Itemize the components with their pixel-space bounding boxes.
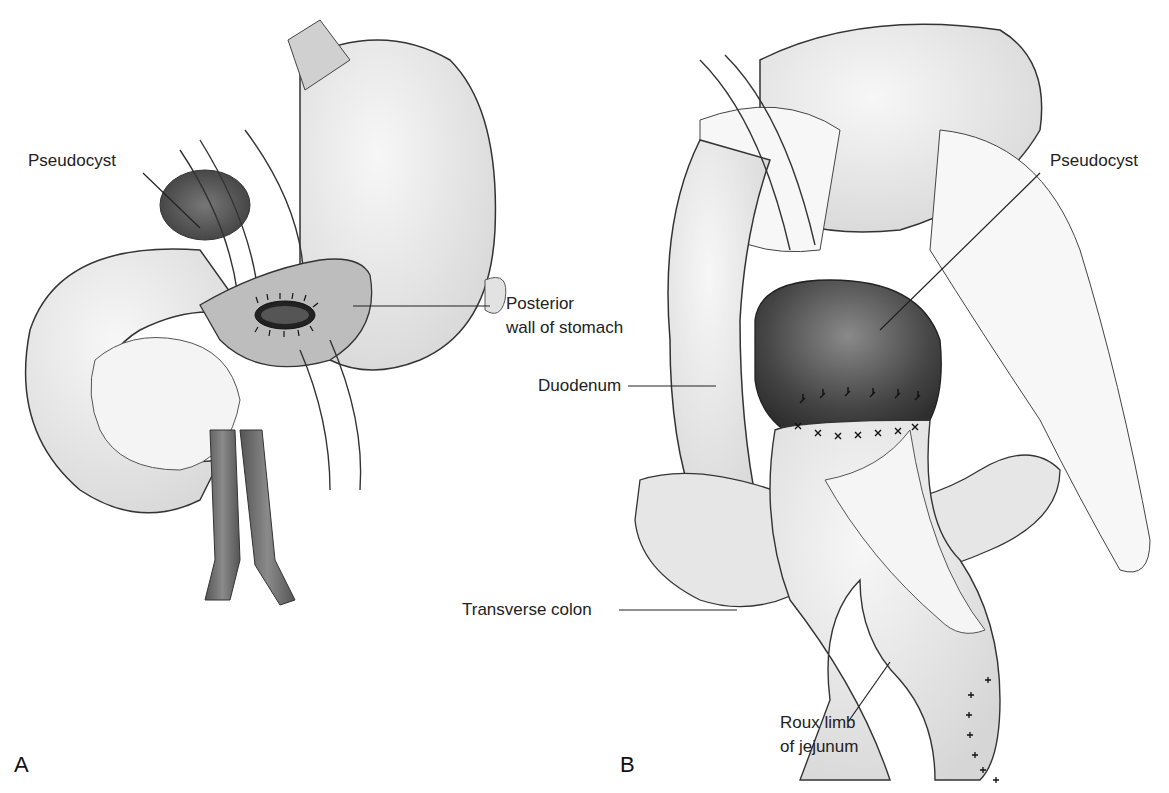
panel-b-illustration bbox=[635, 24, 1150, 783]
label-roux-limb-line2: of jejunum bbox=[780, 736, 858, 758]
label-roux-limb-line1: Roux limb bbox=[780, 712, 856, 734]
panel-a-illustration bbox=[26, 20, 506, 605]
label-transverse-colon: Transverse colon bbox=[462, 599, 592, 621]
pseudocyst-b bbox=[755, 280, 941, 440]
label-posterior-wall-line1: Posterior bbox=[506, 293, 574, 315]
label-posterior-wall-line2: wall of stomach bbox=[506, 317, 623, 339]
panel-letter-a: A bbox=[14, 752, 29, 778]
panel-letter-b: B bbox=[620, 752, 635, 778]
label-pseudocyst-b: Pseudocyst bbox=[1050, 150, 1138, 172]
label-duodenum: Duodenum bbox=[538, 375, 621, 397]
label-pseudocyst-a: Pseudocyst bbox=[28, 150, 116, 172]
pseudocyst-a bbox=[160, 170, 250, 240]
